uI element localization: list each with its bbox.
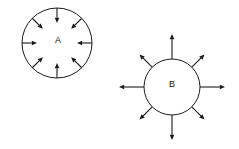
object-group-a: A xyxy=(22,8,92,78)
circle-label-a: A xyxy=(55,35,61,45)
arrow-head-b-2 xyxy=(170,34,175,39)
vector-diagram: A B xyxy=(0,0,239,149)
diagram-canvas: A B xyxy=(0,0,239,149)
arrow-head-b-4 xyxy=(119,85,124,90)
arrow-shaft-b-3 xyxy=(143,58,152,67)
arrow-head-b-6 xyxy=(170,135,175,140)
arrow-shaft-b-5 xyxy=(143,107,152,116)
circle-label-b: B xyxy=(169,79,175,89)
arrow-shaft-b-1 xyxy=(192,58,201,67)
object-group-b: B xyxy=(119,34,225,140)
arrow-shaft-b-7 xyxy=(192,107,201,116)
arrow-head-b-0 xyxy=(220,85,225,90)
